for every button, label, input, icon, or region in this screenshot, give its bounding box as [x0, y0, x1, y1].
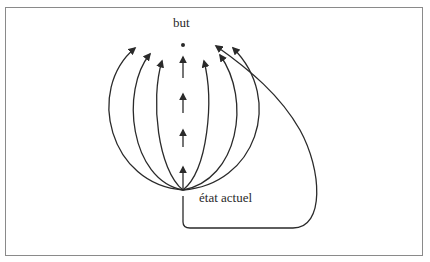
arc-left-2: [133, 54, 183, 190]
arc-left-3: [157, 61, 183, 190]
diagram-canvas: [0, 0, 430, 262]
arc-right-1: [183, 61, 209, 190]
current-state-label: état actuel: [199, 190, 252, 206]
arc-right-2: [183, 55, 237, 190]
goal-label: but: [173, 15, 190, 31]
arc-left-1: [109, 48, 183, 190]
goal-dot: [181, 43, 185, 47]
